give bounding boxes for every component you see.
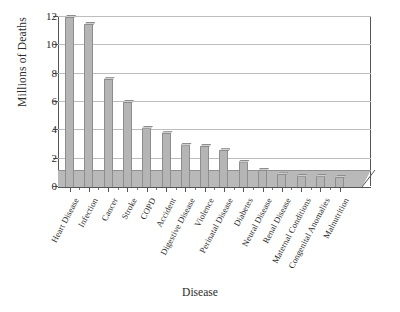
bar-top-face <box>181 143 192 146</box>
x-axis-perspective-edge <box>362 170 376 188</box>
bar <box>335 177 344 187</box>
bar <box>219 150 228 187</box>
x-axis-tick <box>301 188 302 192</box>
bar-top-face <box>65 15 76 18</box>
bar-top-face <box>277 172 288 175</box>
bar-top-face <box>162 131 173 134</box>
bar-top-face <box>84 22 95 25</box>
bar-top-face <box>239 160 250 163</box>
bar <box>123 102 132 187</box>
bar <box>104 79 113 187</box>
x-axis-tick <box>147 188 148 192</box>
x-axis-tick <box>89 188 90 192</box>
y-axis-tick-label: 4 <box>17 124 57 134</box>
x-axis-minor-tick <box>98 188 99 190</box>
x-axis-minor-tick <box>118 188 119 190</box>
bar-top-face <box>142 126 153 129</box>
x-axis-minor-tick <box>234 188 235 190</box>
bar <box>316 176 325 187</box>
x-axis-tick <box>108 188 109 192</box>
bar <box>297 176 306 187</box>
bar <box>277 174 286 187</box>
bar <box>84 24 93 187</box>
x-axis-tick <box>282 188 283 192</box>
bar <box>181 145 190 188</box>
x-axis-tick <box>127 188 128 192</box>
x-axis-tick <box>263 188 264 192</box>
x-axis-tick <box>320 188 321 192</box>
x-axis-minor-tick <box>253 188 254 190</box>
y-axis-tick-label: 0 <box>17 181 57 191</box>
y-axis-tick-label: 10 <box>17 39 57 49</box>
bar-top-face <box>123 100 134 103</box>
x-axis-minor-tick <box>330 188 331 190</box>
x-axis-tick <box>205 188 206 192</box>
x-axis-tick <box>224 188 225 192</box>
bar <box>200 146 209 187</box>
x-axis-minor-tick <box>311 188 312 190</box>
bar-top-face <box>258 168 269 171</box>
bar <box>142 128 151 188</box>
bar-top-face <box>104 77 115 80</box>
bar-series <box>58 16 371 187</box>
x-axis-tick <box>166 188 167 192</box>
y-axis-tick-label: 8 <box>17 68 57 78</box>
bar-top-face <box>316 174 327 177</box>
x-axis-minor-tick <box>195 188 196 190</box>
bar-top-face <box>219 148 230 151</box>
x-axis-tick <box>185 188 186 192</box>
bar-top-face <box>297 174 308 177</box>
x-axis-minor-tick <box>291 188 292 190</box>
chart-container: Millions of Deaths 024681012 Heart Disea… <box>0 0 400 312</box>
x-axis-minor-tick <box>156 188 157 190</box>
bar <box>239 162 248 188</box>
x-axis-minor-tick <box>272 188 273 190</box>
x-axis-minor-tick <box>214 188 215 190</box>
y-axis-tick-label: 2 <box>17 153 57 163</box>
y-axis-tick-label: 6 <box>17 96 57 106</box>
x-axis-minor-tick <box>176 188 177 190</box>
x-axis-title: Disease <box>0 286 400 298</box>
y-axis-tick-label: 12 <box>17 11 57 21</box>
x-axis-minor-tick <box>79 188 80 190</box>
bar <box>65 17 74 187</box>
x-axis-tick <box>243 188 244 192</box>
x-axis-minor-tick <box>137 188 138 190</box>
x-axis-tick <box>70 188 71 192</box>
bar-top-face <box>200 144 211 147</box>
bar <box>162 133 171 187</box>
bar-top-face <box>335 175 346 178</box>
x-axis-tick <box>340 188 341 192</box>
bar <box>258 170 267 187</box>
